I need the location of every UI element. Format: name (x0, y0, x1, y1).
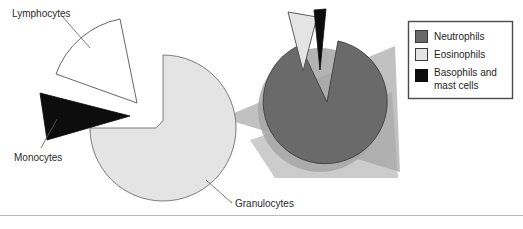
legend: Neutrophils Eosinophils Basophils and ma… (409, 22, 513, 99)
legend-swatch-neutrophils (416, 31, 428, 43)
label-lymphocytes: Lymphocytes (12, 8, 71, 19)
legend-label-basophils-line1: Basophils and (434, 67, 497, 78)
label-granulocytes: Granulocytes (235, 198, 294, 209)
legend-item-neutrophils[interactable]: Neutrophils (416, 31, 485, 43)
label-monocytes: Monocytes (14, 152, 62, 163)
legend-swatch-basophils (416, 70, 428, 82)
legend-swatch-eosinophils (416, 49, 428, 61)
legend-label-basophils-line2: mast cells (434, 80, 478, 91)
figure-panel: Lymphocytes Monocytes Granulocytes Neutr… (0, 0, 523, 229)
blood-cell-pie-figure: Lymphocytes Monocytes Granulocytes Neutr… (0, 0, 523, 229)
legend-item-eosinophils[interactable]: Eosinophils (416, 49, 486, 61)
legend-label-neutrophils: Neutrophils (434, 31, 485, 42)
legend-label-eosinophils: Eosinophils (434, 49, 485, 60)
